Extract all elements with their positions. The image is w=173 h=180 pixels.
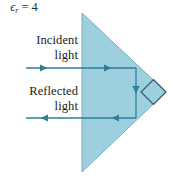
reflected-ray-arrowhead-outer bbox=[41, 114, 49, 121]
prism-shape bbox=[82, 13, 166, 172]
incident-light-label-line1: Incident bbox=[6, 33, 78, 48]
reflected-light-label: Reflected light bbox=[3, 84, 78, 114]
reflected-light-label-line2: light bbox=[3, 99, 78, 114]
incident-ray-arrowhead-outer bbox=[40, 64, 48, 71]
incident-light-label: Incident light bbox=[6, 33, 78, 63]
incident-light-label-line2: light bbox=[6, 48, 78, 63]
reflected-light-label-line1: Reflected bbox=[3, 84, 78, 99]
prism-reflection-figure: Incident light Reflected light ϵr = 4 bbox=[0, 0, 173, 180]
